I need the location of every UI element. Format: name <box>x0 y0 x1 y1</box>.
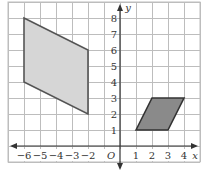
y-tick-label: 8 <box>111 13 117 24</box>
y-axis-label: y <box>124 2 131 13</box>
y-tick-label: 6 <box>111 45 117 56</box>
origin-label: O <box>107 150 115 161</box>
y-tick-label: 1 <box>111 125 117 136</box>
y-tick-label: 4 <box>111 77 117 88</box>
x-tick-label: −5 <box>33 150 48 161</box>
coordinate-plane: −6−5−4−3−2123412345678Oxy <box>0 0 202 170</box>
x-tick-label: 4 <box>181 150 187 161</box>
x-tick-label: 1 <box>133 150 139 161</box>
y-tick-label: 5 <box>111 61 117 72</box>
x-tick-label: −6 <box>17 150 32 161</box>
y-tick-label: 7 <box>111 29 117 40</box>
coordinate-grid-diagram: −6−5−4−3−2123412345678Oxy <box>0 0 202 170</box>
x-axis-label: x <box>192 150 198 161</box>
y-tick-label: 2 <box>111 109 117 120</box>
y-tick-label: 3 <box>111 93 117 104</box>
y-axis-arrow-down-icon <box>117 163 123 170</box>
x-tick-label: 3 <box>165 150 171 161</box>
x-tick-label: −3 <box>65 150 80 161</box>
x-tick-label: −4 <box>49 150 64 161</box>
x-tick-label: 2 <box>149 150 155 161</box>
x-tick-label: −2 <box>81 150 96 161</box>
